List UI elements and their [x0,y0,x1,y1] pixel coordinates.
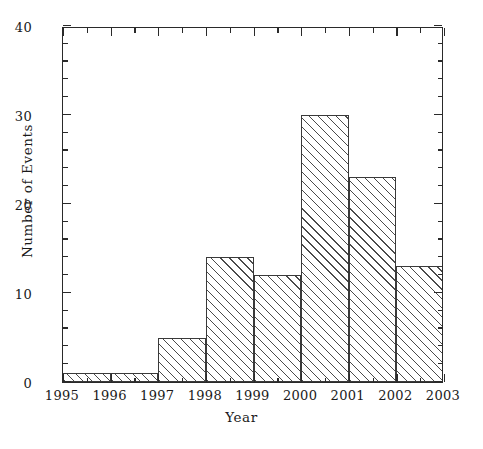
x-axis-tick [444,28,445,36]
x-axis-tick [277,28,278,33]
x-axis-tick [396,28,397,36]
y-axis-tick [63,43,68,44]
x-axis-tick [254,374,255,382]
x-axis-tick [230,28,231,33]
y-tick-label: 0 [0,377,32,390]
x-axis-tick [373,28,374,33]
x-axis-tick [325,378,326,383]
y-axis-tick [438,327,443,328]
y-axis-tick [63,185,68,186]
y-axis-tick [63,274,68,275]
y-axis-tick [438,274,443,275]
y-axis-tick [63,381,71,382]
y-axis-tick [438,43,443,44]
x-tick-label: 2003 [413,389,473,402]
x-axis-tick [182,28,183,33]
x-axis-tick [206,28,207,36]
x-axis-tick [420,378,421,383]
y-axis-tick [434,292,442,293]
x-axis-tick [111,28,112,36]
y-axis-tick [438,96,443,97]
x-axis-tick [349,374,350,382]
y-axis-tick [438,221,443,222]
histogram-figure: 0102030401995199619971998199920002001200… [0,0,483,449]
y-axis-tick [438,185,443,186]
y-axis-tick [438,149,443,150]
y-axis-tick [63,256,68,257]
y-axis-tick [63,327,68,328]
x-axis-tick [349,28,350,36]
x-axis-tick [420,28,421,33]
y-axis-tick [63,149,68,150]
y-axis-tick [434,25,442,26]
x-axis-tick [134,378,135,383]
x-axis-tick [301,28,302,36]
y-axis-tick [63,221,68,222]
x-axis-tick [63,374,64,382]
y-axis-tick [438,310,443,311]
x-axis-tick [63,28,64,36]
x-axis-tick [254,28,255,36]
y-axis-tick [438,78,443,79]
x-axis-tick [111,374,112,382]
x-axis-tick [277,378,278,383]
y-axis-tick [438,132,443,133]
plot-area [62,27,443,383]
y-axis-tick [63,132,68,133]
histogram-bar [349,177,397,382]
y-axis-tick [438,167,443,168]
x-axis-tick [444,374,445,382]
y-axis-tick [63,114,71,115]
y-axis-title: Number of Events [19,81,35,301]
histogram-bar [206,257,254,382]
x-axis-tick [158,374,159,382]
y-axis-tick [63,96,68,97]
histogram-bar [396,266,442,382]
x-axis-tick [396,374,397,382]
x-axis-tick [230,378,231,383]
y-axis-tick [63,60,68,61]
y-axis-tick [63,78,68,79]
y-tick-label: 40 [0,21,32,34]
x-axis-tick [206,374,207,382]
x-axis-tick [325,28,326,33]
y-axis-tick [63,167,68,168]
y-axis-tick [438,238,443,239]
y-axis-tick [438,363,443,364]
y-axis-tick [438,60,443,61]
y-axis-tick [63,238,68,239]
y-axis-tick [63,203,71,204]
bars-layer [63,28,442,382]
x-axis-tick [87,28,88,33]
y-axis-tick [434,381,442,382]
y-axis-tick [434,203,442,204]
x-axis-tick [182,378,183,383]
y-axis-tick [63,363,68,364]
y-axis-tick [63,25,71,26]
x-axis-tick [87,378,88,383]
y-axis-tick [438,345,443,346]
y-axis-tick [434,114,442,115]
x-axis-tick [134,28,135,33]
x-axis-tick [301,374,302,382]
y-axis-tick [438,256,443,257]
y-axis-tick [63,310,68,311]
histogram-bar [301,115,349,382]
y-axis-tick [63,345,68,346]
x-axis-tick [373,378,374,383]
y-axis-tick [63,292,71,293]
x-axis-title: Year [0,409,483,425]
histogram-bar [254,275,302,382]
x-axis-tick [158,28,159,36]
histogram-bar [158,338,206,383]
